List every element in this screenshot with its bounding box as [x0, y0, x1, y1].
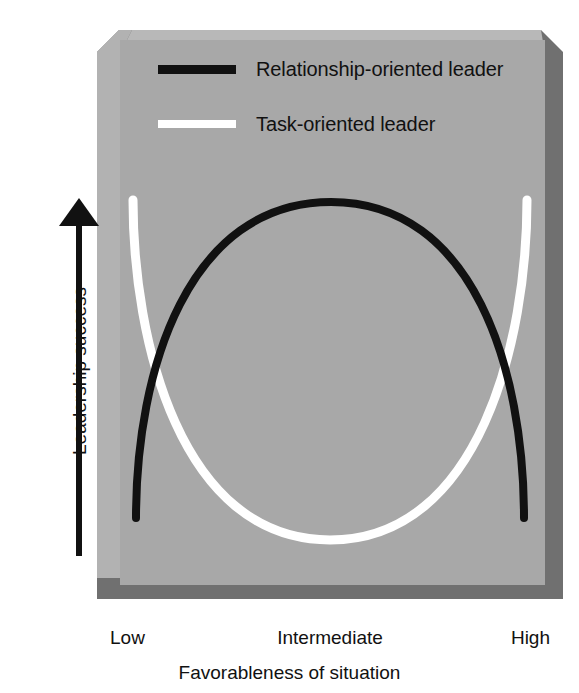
y-axis-label: Leadership success	[69, 251, 91, 491]
legend-swatch-icon-task	[158, 120, 236, 128]
x-tick-high: High	[511, 627, 550, 649]
series-task-oriented-curve	[133, 200, 527, 540]
x-axis-title: Favorableness of situation	[0, 662, 579, 684]
legend-label-task: Task-oriented leader	[256, 114, 435, 134]
x-tick-intermediate: Intermediate	[110, 627, 550, 649]
series-relationship-oriented-curve	[136, 202, 524, 518]
legend-label-relationship: Relationship-oriented leader	[256, 59, 503, 79]
legend-item-relationship-oriented: Relationship-oriented leader	[158, 52, 538, 86]
legend-swatch-icon-relationship	[158, 65, 236, 74]
legend: Relationship-oriented leader Task-orient…	[158, 52, 538, 141]
figure-container: Relationship-oriented leader Task-orient…	[0, 0, 579, 693]
legend-item-task-oriented: Task-oriented leader	[158, 107, 538, 141]
x-axis-ticks: Low Intermediate High	[110, 627, 550, 653]
